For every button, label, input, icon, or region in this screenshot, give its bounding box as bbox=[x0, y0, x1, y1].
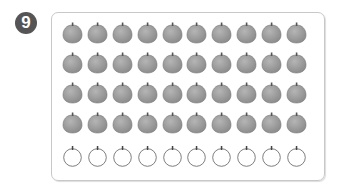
outline-fruit-icon bbox=[186, 145, 207, 167]
filled-fruit-icon bbox=[62, 82, 83, 104]
filled-fruit-icon bbox=[112, 82, 133, 104]
filled-fruit-icon bbox=[286, 82, 307, 104]
outline-fruit-icon bbox=[236, 145, 257, 167]
outline-fruit-icon bbox=[286, 145, 307, 167]
fruit-row bbox=[62, 52, 311, 82]
filled-fruit-icon bbox=[186, 112, 207, 134]
outline-fruit-icon bbox=[211, 145, 232, 167]
filled-fruit-icon bbox=[62, 52, 83, 74]
filled-fruit-icon bbox=[162, 22, 183, 44]
outline-fruit-icon bbox=[137, 145, 158, 167]
filled-fruit-icon bbox=[87, 82, 108, 104]
filled-fruit-icon bbox=[261, 82, 282, 104]
filled-fruit-icon bbox=[186, 82, 207, 104]
filled-fruit-icon bbox=[137, 52, 158, 74]
filled-fruit-icon bbox=[62, 112, 83, 134]
filled-fruit-icon bbox=[236, 22, 257, 44]
filled-fruit-icon bbox=[211, 112, 232, 134]
filled-fruit-icon bbox=[211, 22, 232, 44]
filled-fruit-icon bbox=[87, 112, 108, 134]
filled-fruit-icon bbox=[87, 52, 108, 74]
problem-number-badge: 9 bbox=[15, 12, 37, 34]
outline-fruit-icon bbox=[261, 145, 282, 167]
filled-fruit-icon bbox=[236, 112, 257, 134]
fruit-row bbox=[62, 82, 311, 112]
filled-fruit-icon bbox=[137, 112, 158, 134]
filled-fruit-icon bbox=[286, 52, 307, 74]
filled-fruit-icon bbox=[186, 22, 207, 44]
outline-fruit-icon bbox=[162, 145, 183, 167]
filled-fruit-icon bbox=[186, 52, 207, 74]
filled-fruit-icon bbox=[236, 82, 257, 104]
outline-fruit-icon bbox=[112, 145, 133, 167]
filled-fruit-icon bbox=[236, 52, 257, 74]
outline-fruit-icon bbox=[62, 145, 83, 167]
filled-fruit-icon bbox=[261, 22, 282, 44]
filled-fruit-icon bbox=[162, 82, 183, 104]
filled-fruit-icon bbox=[112, 112, 133, 134]
filled-fruit-icon bbox=[137, 22, 158, 44]
fruit-grid bbox=[62, 22, 311, 175]
filled-fruit-icon bbox=[211, 82, 232, 104]
fruit-row bbox=[62, 22, 311, 52]
fruit-row bbox=[62, 112, 311, 142]
filled-fruit-icon bbox=[62, 22, 83, 44]
filled-fruit-icon bbox=[261, 52, 282, 74]
filled-fruit-icon bbox=[261, 112, 282, 134]
filled-fruit-icon bbox=[286, 112, 307, 134]
filled-fruit-icon bbox=[162, 52, 183, 74]
filled-fruit-icon bbox=[286, 22, 307, 44]
filled-fruit-icon bbox=[211, 52, 232, 74]
filled-fruit-icon bbox=[112, 52, 133, 74]
filled-fruit-icon bbox=[87, 22, 108, 44]
filled-fruit-icon bbox=[162, 112, 183, 134]
filled-fruit-icon bbox=[112, 22, 133, 44]
fruit-row bbox=[62, 145, 311, 175]
outline-fruit-icon bbox=[87, 145, 108, 167]
filled-fruit-icon bbox=[137, 82, 158, 104]
